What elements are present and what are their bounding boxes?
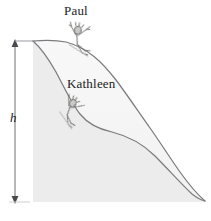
arrowhead-bottom-icon [12,196,19,204]
label-paul: Paul [64,3,88,19]
paul-torso [74,34,79,44]
label-kathleen: Kathleen [67,76,116,92]
label-height-h: h [10,110,17,126]
figure-canvas [0,0,211,221]
sliding-curves-figure: Paul Kathleen h [0,0,211,221]
arrowhead-top-icon [12,39,19,47]
